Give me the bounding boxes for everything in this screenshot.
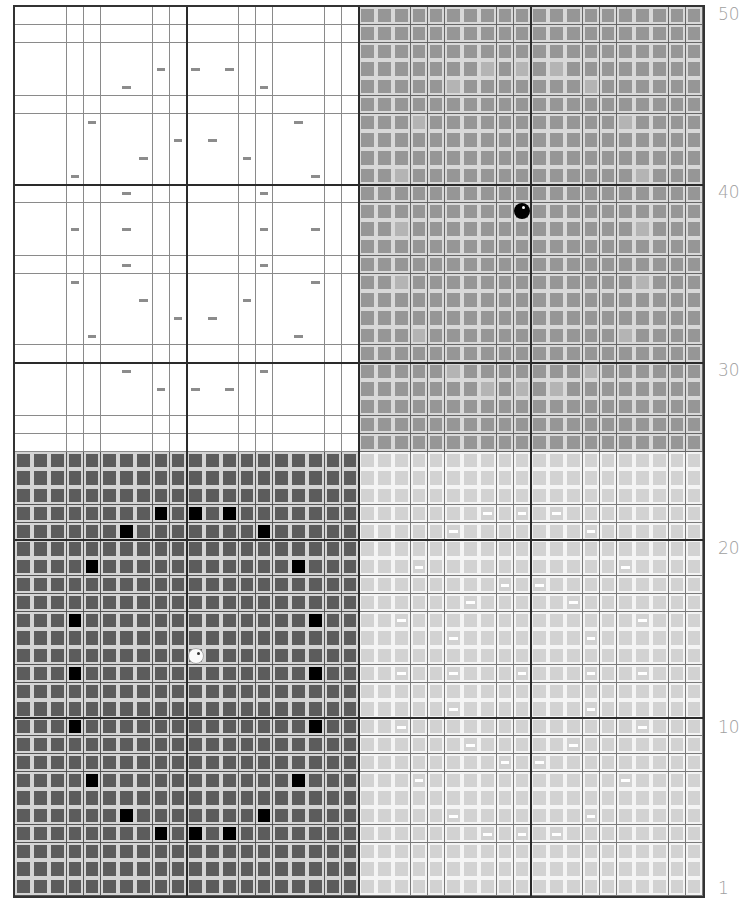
- cell-tile: [464, 169, 477, 182]
- cell-tile: [550, 98, 563, 111]
- cell-tile: [481, 702, 494, 715]
- cell-tile: [516, 400, 529, 413]
- dash-mark-icon: [311, 281, 320, 284]
- cell-tile: [567, 240, 580, 253]
- grid-cell: [359, 487, 377, 505]
- cell-tile: [464, 774, 477, 787]
- grid-cell: [462, 256, 480, 274]
- cell-tile: [636, 258, 649, 271]
- cell-tile: [103, 489, 116, 502]
- grid-cell: [600, 345, 618, 363]
- grid-cell: [101, 363, 119, 381]
- cell-tile: [516, 62, 529, 75]
- cell-tile: [103, 827, 116, 840]
- grid-cell: [376, 683, 394, 701]
- grid-cell: [101, 629, 119, 647]
- dash-mark-icon: [466, 601, 475, 604]
- grid-cell: [462, 434, 480, 452]
- grid-cell: [325, 185, 343, 203]
- grid-cell: [411, 576, 429, 594]
- grid-cell: [187, 434, 205, 452]
- grid-cell: [359, 452, 377, 470]
- cell-tile: [430, 418, 443, 431]
- grid-cell: [256, 772, 274, 790]
- grid-cell: [686, 25, 704, 43]
- cell-tile: [550, 525, 563, 538]
- grid-cell: [239, 700, 257, 718]
- cell-tile: [103, 756, 116, 769]
- grid-cell: [342, 487, 360, 505]
- grid-cell: [187, 718, 205, 736]
- grid-cell: [428, 469, 446, 487]
- grid-cell: [135, 505, 153, 523]
- cell-tile: [309, 614, 322, 627]
- grid-cell: [49, 345, 67, 363]
- cell-tile: [499, 791, 512, 804]
- grid-cell: [135, 487, 153, 505]
- cell-tile: [103, 774, 116, 787]
- grid-cell: [118, 789, 136, 807]
- grid-cell: [479, 185, 497, 203]
- cell-tile: [172, 454, 185, 467]
- cell-tile: [499, 258, 512, 271]
- cell-tile: [17, 791, 30, 804]
- grid-cell: [359, 612, 377, 630]
- cell-tile: [413, 809, 426, 822]
- grid-cell: [617, 416, 635, 434]
- cell-tile: [86, 756, 99, 769]
- cell-tile: [51, 525, 64, 538]
- grid-cell: [462, 167, 480, 185]
- cell-tile: [516, 240, 529, 253]
- grid-cell: [634, 416, 652, 434]
- cell-tile: [361, 205, 374, 218]
- cell-tile: [309, 507, 322, 520]
- grid-cell: [393, 629, 411, 647]
- cell-tile: [653, 240, 666, 253]
- cell-tile: [327, 845, 340, 858]
- cell-tile: [619, 240, 632, 253]
- cell-tile: [395, 845, 408, 858]
- cell-tile: [275, 791, 288, 804]
- grid-cell: [583, 807, 601, 825]
- cell-tile: [17, 845, 30, 858]
- cell-tile: [34, 489, 47, 502]
- grid-cell: [565, 807, 583, 825]
- cell-tile: [430, 614, 443, 627]
- dash-mark-icon: [587, 637, 596, 640]
- cell-tile: [464, 116, 477, 129]
- cell-tile: [464, 205, 477, 218]
- grid-cell: [428, 220, 446, 238]
- grid-cell: [170, 220, 188, 238]
- grid-cell: [600, 825, 618, 843]
- cell-tile: [430, 98, 443, 111]
- grid-cell: [583, 452, 601, 470]
- grid-cell: [376, 203, 394, 221]
- grid-cell: [256, 220, 274, 238]
- grid-cell: [67, 558, 85, 576]
- cell-tile: [378, 240, 391, 253]
- cell-tile: [447, 614, 460, 627]
- grid-cell: [135, 647, 153, 665]
- grid-cell: [565, 576, 583, 594]
- grid-cell: [325, 398, 343, 416]
- grid-cell: [187, 878, 205, 896]
- cell-tile: [481, 329, 494, 342]
- cell-tile: [688, 27, 701, 40]
- cell-tile: [653, 774, 666, 787]
- cell-tile: [292, 542, 305, 555]
- grid-cell: [428, 185, 446, 203]
- grid-cell: [342, 594, 360, 612]
- cell-tile: [51, 542, 64, 555]
- grid-cell: [187, 789, 205, 807]
- cell-tile: [671, 240, 684, 253]
- grid-cell: [325, 505, 343, 523]
- dash-mark-icon: [243, 157, 252, 160]
- cell-tile: [223, 578, 236, 591]
- cell-tile: [86, 631, 99, 644]
- cell-tile: [688, 205, 701, 218]
- grid-cell: [153, 291, 171, 309]
- grid-cell: [634, 43, 652, 61]
- cell-tile: [619, 169, 632, 182]
- grid-cell: [514, 807, 532, 825]
- grid-cell: [359, 576, 377, 594]
